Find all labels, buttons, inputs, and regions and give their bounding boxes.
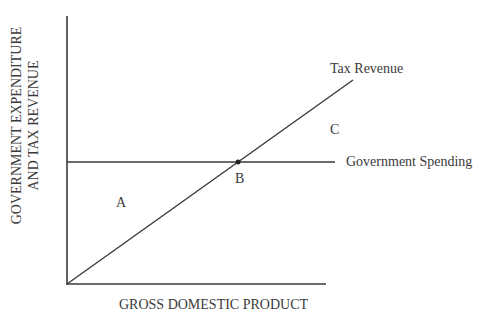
tax-revenue-label: Tax Revenue [330,62,403,76]
point-b-label: B [235,172,244,186]
region-c-label: C [330,123,339,137]
government-spending-label: Government Spending [346,155,472,169]
y-axis-label-line2: AND TAX REVENUE [25,0,42,285]
y-axis-label: GOVERNMENT EXPENDITURE AND TAX REVENUE [8,0,68,285]
intersection-point-b [236,160,241,165]
tax-revenue-line [67,80,353,284]
y-axis-label-line1: GOVERNMENT EXPENDITURE [8,0,25,285]
x-axis-label: GROSS DOMESTIC PRODUCT [119,298,308,312]
region-a-label: A [116,196,126,210]
